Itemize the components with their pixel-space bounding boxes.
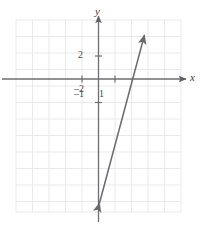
x-tick-label-1: 1 <box>99 89 104 99</box>
coordinate-plane-svg <box>0 0 204 226</box>
graph-figure: y x 2 –2 –1 1 <box>0 0 204 226</box>
y-axis-label: y <box>95 6 100 17</box>
y-tick-label-2: 2 <box>78 50 83 60</box>
x-tick-label-negative-1: –1 <box>74 89 84 99</box>
x-axis-label: x <box>190 72 195 83</box>
